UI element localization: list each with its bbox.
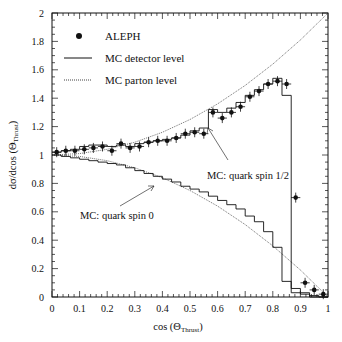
data-point bbox=[146, 140, 151, 145]
arrow-spin-half-icon bbox=[208, 128, 228, 160]
data-point bbox=[137, 144, 142, 149]
y-tick-label: 0.2 bbox=[32, 263, 45, 274]
plot-frame bbox=[52, 13, 328, 297]
data-point bbox=[91, 146, 96, 151]
detector-histograms bbox=[52, 78, 328, 297]
data-point bbox=[174, 136, 179, 141]
axis-ticks bbox=[52, 13, 328, 297]
annotation-spin-zero: MC: quark spin 0 bbox=[80, 210, 154, 221]
data-point bbox=[183, 131, 188, 136]
data-point bbox=[211, 110, 216, 115]
data-point bbox=[284, 82, 289, 87]
y-tick-label: 2 bbox=[39, 8, 44, 19]
x-tick-label: 0.5 bbox=[184, 303, 197, 314]
data-point bbox=[303, 281, 308, 286]
y-tick-label: 1 bbox=[39, 150, 44, 161]
data-point bbox=[202, 131, 207, 136]
y-axis-label: dσ/dcos (ΘThrust) bbox=[7, 120, 20, 189]
x-tick-labels: 00.10.20.30.40.50.60.70.80.91 bbox=[50, 303, 331, 314]
data-point bbox=[257, 89, 262, 94]
x-axis-label: cos (ΘThrust) bbox=[153, 321, 203, 334]
data-point bbox=[248, 94, 253, 99]
y-tick-label: 1.6 bbox=[32, 64, 45, 75]
annotation-spin-half: MC: quark spin 1/2 bbox=[207, 170, 289, 181]
y-tick-label: 1.4 bbox=[32, 93, 45, 104]
data-point bbox=[321, 292, 326, 297]
annotations: MC: quark spin 1/2 MC: quark spin 0 bbox=[80, 128, 289, 221]
data-point bbox=[238, 104, 243, 109]
plot-border bbox=[52, 13, 328, 297]
y-tick-label: 1.8 bbox=[32, 36, 45, 47]
x-tick-label: 0.1 bbox=[73, 303, 86, 314]
y-tick-label: 0.8 bbox=[32, 178, 45, 189]
legend-label-detector: MC detector level bbox=[105, 52, 184, 64]
data-point bbox=[275, 79, 280, 84]
data-point bbox=[312, 288, 317, 293]
physics-chart: 00.10.20.30.40.50.60.70.80.91 00.20.40.6… bbox=[0, 0, 342, 342]
x-tick-label: 0.2 bbox=[101, 303, 114, 314]
data-point bbox=[293, 195, 298, 200]
x-tick-label: 0.3 bbox=[129, 303, 142, 314]
y-tick-label: 0.4 bbox=[32, 235, 45, 246]
data-point bbox=[229, 110, 234, 115]
data-point bbox=[165, 139, 170, 144]
x-tick-label: 0.7 bbox=[239, 303, 252, 314]
data-point bbox=[119, 141, 124, 146]
data-point bbox=[266, 82, 271, 87]
arrow-spin-zero-icon bbox=[120, 186, 154, 206]
data-point bbox=[54, 150, 59, 155]
data-point bbox=[220, 116, 225, 121]
data-point bbox=[155, 139, 160, 144]
y-tick-labels: 00.20.40.60.811.21.41.61.82 bbox=[32, 8, 45, 303]
parton-curves bbox=[52, 13, 328, 297]
data-point bbox=[64, 148, 69, 153]
legend-marker-icon bbox=[76, 33, 82, 39]
x-tick-label: 0.9 bbox=[294, 303, 307, 314]
legend: ALEPH MC detector level MC parton level bbox=[64, 30, 184, 86]
x-tick-label: 0.8 bbox=[267, 303, 280, 314]
y-tick-label: 1.2 bbox=[32, 121, 45, 132]
x-tick-label: 1 bbox=[326, 303, 331, 314]
x-tick-label: 0.6 bbox=[211, 303, 224, 314]
y-tick-label: 0.6 bbox=[32, 206, 45, 217]
data-point bbox=[192, 130, 197, 135]
data-point bbox=[100, 144, 105, 149]
x-tick-label: 0.4 bbox=[156, 303, 169, 314]
data-point bbox=[110, 148, 115, 153]
y-tick-label: 0 bbox=[39, 292, 44, 303]
legend-label-aleph: ALEPH bbox=[105, 30, 141, 42]
data-point bbox=[82, 147, 87, 152]
data-point bbox=[73, 148, 78, 153]
legend-label-parton: MC parton level bbox=[105, 74, 177, 86]
x-tick-label: 0 bbox=[50, 303, 55, 314]
data-point bbox=[128, 146, 133, 151]
